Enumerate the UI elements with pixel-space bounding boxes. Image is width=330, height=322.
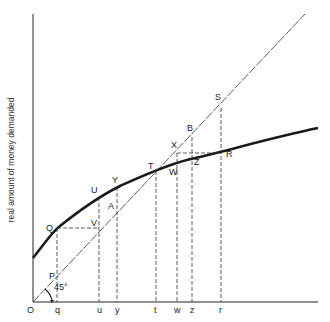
- point-S: S: [215, 92, 221, 102]
- point-R: R: [226, 149, 233, 159]
- x-tick-z: z: [190, 305, 195, 315]
- point-X: X: [171, 140, 177, 150]
- point-A: A: [108, 201, 114, 211]
- vertical-guides: [57, 108, 221, 302]
- x-tick-t: t: [154, 305, 157, 315]
- point-Z: Z: [194, 157, 200, 167]
- angle-arc-icon: [45, 289, 52, 300]
- point-Y: Y: [112, 175, 118, 185]
- point-V: V: [91, 218, 97, 228]
- x-tick-w: w: [173, 305, 181, 315]
- x-tick-q: q: [55, 305, 60, 315]
- point-Q: Q: [46, 223, 53, 233]
- x-tick-u: u: [97, 305, 102, 315]
- x-tick-r: r: [219, 305, 222, 315]
- angle-label: 45°: [54, 282, 68, 292]
- point-W: W: [169, 167, 178, 177]
- point-P: P: [49, 271, 55, 281]
- y-axis-title: real amount of money demanded: [6, 97, 16, 222]
- money-demand-diagram: 45° real amount of money demanded O q u …: [0, 0, 330, 322]
- point-U: U: [91, 185, 98, 195]
- point-T: T: [148, 161, 154, 171]
- x-tick-labels: q u y t w z r: [55, 305, 222, 315]
- 45-degree-line: [33, 14, 305, 302]
- point-B: B: [187, 123, 193, 133]
- origin-label: O: [27, 305, 34, 315]
- x-tick-y: y: [115, 305, 120, 315]
